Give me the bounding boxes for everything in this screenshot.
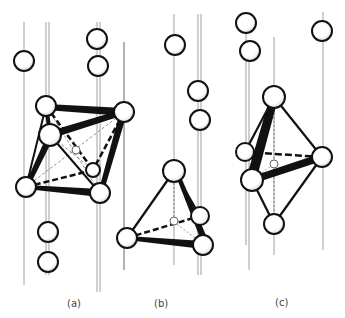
panel-label-c: (c) xyxy=(275,297,288,308)
panel-label-b: (b) xyxy=(154,298,168,309)
tetrahedron-panel-b xyxy=(117,35,213,255)
polyhedra-figure: (a) (b) (c) xyxy=(0,0,345,318)
diagram-canvas xyxy=(0,0,345,318)
panel-label-a: (a) xyxy=(67,298,81,309)
octahedron-panel-a xyxy=(14,29,134,272)
bipyramid-panel-c xyxy=(236,13,332,234)
